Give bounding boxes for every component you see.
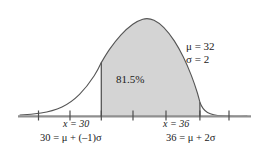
x30-tick-label: x = 30 <box>63 118 89 130</box>
x36-equation-label: 36 = μ + 2σ <box>166 132 215 144</box>
x36-tick-label: x = 36 <box>163 118 189 130</box>
area-percent-label: 81.5% <box>116 73 144 86</box>
mean-parameter-label: μ = 32 <box>186 40 215 53</box>
sd-parameter-label: σ = 2 <box>186 53 215 66</box>
x30-equation-label: 30 = μ + (–1)σ <box>40 132 102 144</box>
distribution-parameters: μ = 32 σ = 2 <box>186 40 215 65</box>
normal-distribution-figure: μ = 32 σ = 2 81.5% x = 30 x = 36 30 = μ … <box>0 0 267 154</box>
shaded-area-region <box>101 19 200 116</box>
